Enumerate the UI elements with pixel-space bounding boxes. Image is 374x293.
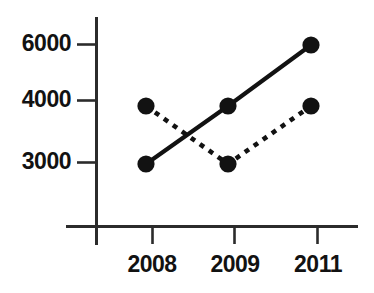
- data-point: [137, 97, 154, 114]
- data-point: [219, 97, 236, 114]
- y-tick-label-4000: 4000: [22, 86, 71, 112]
- data-point: [302, 97, 319, 114]
- data-point: [219, 155, 236, 172]
- x-tick-label-2011: 2011: [294, 251, 343, 277]
- chart-canvas: 6000 4000 3000 2008 2009 2011: [0, 0, 374, 293]
- y-tick-label-3000: 3000: [22, 148, 71, 174]
- x-tick-label-2009: 2009: [210, 251, 259, 277]
- line-chart-figure: 6000 4000 3000 2008 2009 2011: [0, 0, 374, 293]
- data-point: [137, 155, 154, 172]
- data-point: [302, 36, 319, 53]
- x-tick-label-2008: 2008: [127, 251, 177, 277]
- y-tick-label-6000: 6000: [22, 30, 71, 56]
